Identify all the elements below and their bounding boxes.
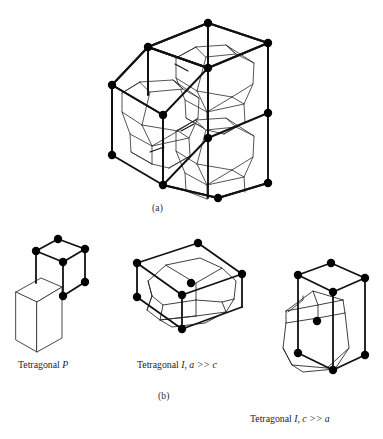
- panel-b-tetragonal-i-ca-graphic: [283, 259, 369, 374]
- panel-caption-b: (b): [158, 391, 170, 401]
- lattice-node: [264, 39, 272, 47]
- lattice-frame-a-upper: [112, 23, 268, 185]
- panel-b-tetragonal-i-ac-graphic: [133, 239, 246, 333]
- wigner-seitz-prism-p: [16, 278, 62, 352]
- lattice-node-centre: [187, 279, 195, 287]
- lattice-node: [178, 291, 186, 299]
- label-tetragonal-i-c-prefix: Tetragonal: [250, 413, 294, 424]
- lattice-nodes-ac: [133, 239, 246, 333]
- lattice-node: [204, 64, 212, 72]
- panel-a-graphic: [108, 19, 272, 202]
- lattice-node: [204, 134, 212, 142]
- lattice-node: [159, 111, 167, 119]
- label-tetragonal-i-a-gg-c: Tetragonal I, a >> c: [137, 359, 217, 370]
- lattice-node: [133, 259, 141, 267]
- lattice-node: [294, 349, 302, 357]
- lattice-node: [264, 179, 272, 187]
- lattice-node: [144, 43, 152, 51]
- lattice-node: [178, 325, 186, 333]
- lattice-node: [238, 270, 246, 278]
- lattice-node: [108, 81, 116, 89]
- lattice-node: [214, 194, 222, 202]
- lattice-node: [81, 278, 89, 286]
- panel-caption-a: (a): [152, 203, 163, 213]
- lattice-node: [204, 19, 212, 27]
- lattice-node: [81, 245, 89, 253]
- label-tetragonal-p-prefix: Tetragonal: [18, 359, 62, 370]
- lattice-node: [329, 366, 337, 374]
- lattice-node: [54, 235, 62, 243]
- lattice-node: [361, 274, 369, 282]
- panel-b-tetragonal-p-graphic: [16, 235, 89, 352]
- label-tetragonal-p-symbol: P: [62, 359, 68, 370]
- lattice-node: [108, 151, 116, 159]
- lattice-node: [32, 247, 40, 255]
- lattice-node: [59, 292, 67, 300]
- label-tetragonal-i-c-gg-a: Tetragonal I, c >> a: [250, 413, 330, 424]
- lattice-node: [133, 293, 141, 301]
- lattice-node-centre: [313, 317, 321, 325]
- lattice-node: [194, 239, 202, 247]
- lattice-nodes-a: [108, 19, 272, 202]
- label-tetragonal-p: Tetragonal P: [18, 359, 68, 370]
- lattice-node: [361, 351, 369, 359]
- label-tetragonal-i-a-relation: , a >> c: [184, 359, 216, 370]
- label-tetragonal-i-a-prefix: Tetragonal: [137, 359, 181, 370]
- label-tetragonal-i-c-relation: , c >> a: [297, 413, 329, 424]
- lattice-node: [294, 271, 302, 279]
- crystallography-figure: (a) (b) Tetragonal P Tetragonal I, a >> …: [0, 0, 383, 439]
- wigner-seitz-polyhedron-a-left: [122, 80, 199, 168]
- lattice-node: [327, 259, 335, 267]
- lattice-node: [159, 181, 167, 189]
- lattice-node: [329, 288, 337, 296]
- lattice-node: [59, 258, 67, 266]
- figure-canvas: [0, 0, 383, 439]
- wigner-seitz-polyhedron-ca: [283, 291, 349, 372]
- lattice-node: [264, 109, 272, 117]
